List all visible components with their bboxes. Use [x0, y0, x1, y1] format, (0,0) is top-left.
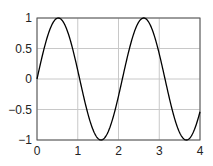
x-tick-label: 0	[34, 144, 41, 158]
sine-chart: 01234 10.50−0.5−1	[0, 0, 213, 166]
y-tick-label: 0.5	[15, 42, 32, 56]
y-tick-label: −0.5	[8, 103, 32, 117]
y-tick-label: 0	[25, 72, 32, 86]
y-axis-ticks: 10.50−0.5−1	[8, 11, 32, 147]
y-tick-label: 1	[25, 11, 32, 25]
x-tick-label: 3	[156, 144, 163, 158]
y-tick-label: −1	[18, 133, 32, 147]
x-tick-label: 1	[74, 144, 81, 158]
x-axis-ticks: 01234	[34, 144, 204, 158]
x-tick-label: 4	[197, 144, 204, 158]
x-tick-label: 2	[115, 144, 122, 158]
